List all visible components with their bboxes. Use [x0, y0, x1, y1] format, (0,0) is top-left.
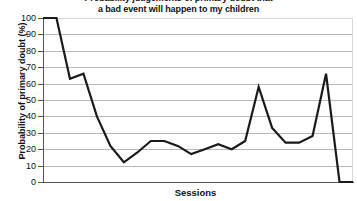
y-tick-label: 60 — [12, 80, 36, 88]
chart-title-line-2: a bad event will happen to my children — [0, 4, 357, 15]
y-axis-tick-labels: 1009080706050403020100 — [0, 0, 36, 201]
y-tick-label: 90 — [12, 30, 36, 38]
y-tick-label: 70 — [12, 63, 36, 71]
data-series-line — [43, 18, 353, 182]
y-tick-label: 0 — [12, 178, 36, 186]
y-tick-label: 80 — [12, 47, 36, 55]
y-tick-label: 20 — [12, 145, 36, 153]
x-axis-label: Sessions — [38, 187, 353, 198]
chart-title: Probability judgements of primary doubt … — [0, 0, 357, 14]
y-tick-label: 100 — [12, 14, 36, 22]
y-tick-label: 10 — [12, 162, 36, 170]
chart-container: Probability judgements of primary doubt … — [0, 0, 357, 201]
y-tick-label: 40 — [12, 112, 36, 120]
y-tick-label: 50 — [12, 96, 36, 104]
y-tick-label: 30 — [12, 129, 36, 137]
